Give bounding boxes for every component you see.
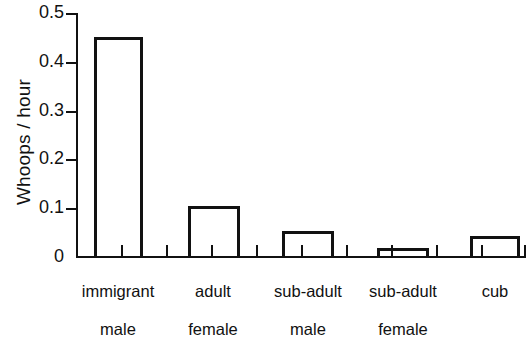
x-label-line2: female bbox=[163, 320, 263, 339]
x-label-line1: immigrant bbox=[62, 282, 174, 301]
y-tick-0.1 bbox=[66, 208, 77, 210]
y-axis-line bbox=[76, 13, 78, 258]
y-tick-label-0.1: 0.1 bbox=[18, 198, 64, 216]
bar-sub-adult-male bbox=[282, 231, 334, 257]
x-label-sub-adult-female: sub-adult female bbox=[351, 263, 455, 339]
y-tick-label-0.3: 0.3 bbox=[18, 101, 64, 119]
y-tick-0.4 bbox=[66, 62, 77, 64]
x-label-line2: male bbox=[62, 320, 174, 339]
y-tick-0.3 bbox=[66, 111, 77, 113]
y-tick-label-0.2: 0.2 bbox=[18, 149, 64, 167]
x-tick-10 bbox=[524, 245, 526, 257]
x-label-sub-adult-male: sub-adult male bbox=[256, 263, 360, 339]
bar-adult-female bbox=[188, 206, 240, 257]
x-label-cub: cub bbox=[455, 263, 526, 339]
x-label-line1: cub bbox=[455, 282, 526, 301]
x-label-line1: sub-adult bbox=[256, 282, 360, 301]
y-tick-0.2 bbox=[66, 159, 77, 161]
x-tick-2 bbox=[166, 245, 168, 257]
y-tick-label-0.4: 0.4 bbox=[18, 52, 64, 70]
x-label-adult-female: adult female bbox=[163, 263, 263, 339]
x-label-line2: male bbox=[256, 320, 360, 339]
y-tick-0.5 bbox=[66, 13, 77, 15]
bar-immigrant-male bbox=[94, 37, 143, 257]
x-label-immigrant-male: immigrant male bbox=[62, 263, 174, 339]
x-label-line1: sub-adult bbox=[351, 282, 455, 301]
x-label-line2: female bbox=[351, 320, 455, 339]
bar-sub-adult-female bbox=[377, 248, 429, 257]
x-label-line1: adult bbox=[163, 282, 263, 301]
bar-cub bbox=[470, 236, 520, 257]
x-tick-0 bbox=[76, 245, 78, 257]
y-tick-label-0.5: 0.5 bbox=[18, 3, 64, 21]
y-tick-label-0: 0 bbox=[18, 247, 64, 265]
x-tick-4 bbox=[256, 245, 258, 257]
x-tick-8 bbox=[436, 245, 438, 257]
x-tick-6 bbox=[346, 245, 348, 257]
